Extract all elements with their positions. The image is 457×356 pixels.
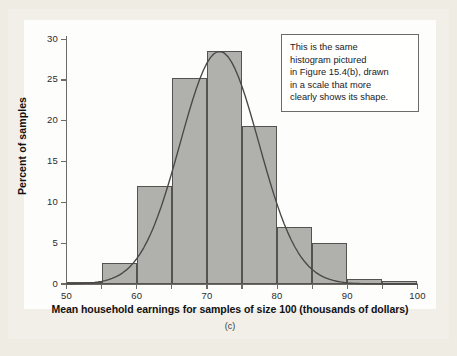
x-tick-label-50: 50 [47, 290, 87, 301]
annotation-line-4: clearly shows its shape. [290, 91, 411, 104]
annotation-line-3: in a scale that more [290, 79, 411, 92]
histogram-bar-85-90 [312, 243, 347, 284]
histogram-bar-90-95 [347, 279, 382, 284]
y-tick-label-5: 5 [12, 237, 58, 248]
histogram-bar-55-60 [102, 263, 137, 284]
x-tick-95 [382, 284, 383, 289]
histogram-bar-95-100 [382, 281, 417, 284]
histogram-bar-50-55 [67, 282, 102, 284]
x-tick-label-90: 90 [327, 290, 367, 301]
figure-panel: 051015202530 5060708090100 Percent of sa… [0, 0, 457, 356]
x-tick-label-70: 70 [187, 290, 227, 301]
annotation-line-0: This is the same [290, 41, 411, 54]
annotation-line-1: histogram pictured [290, 54, 411, 67]
x-tick-65 [171, 284, 172, 289]
x-tick-90 [347, 284, 348, 289]
x-tick-50 [66, 284, 67, 289]
y-axis-title: Percent of samples [16, 66, 28, 226]
x-tick-100 [417, 284, 418, 289]
x-tick-85 [312, 284, 313, 289]
annotation-line-2: in Figure 15.4(b), drawn [290, 66, 411, 79]
chart-plot-area: 051015202530 5060708090100 Percent of sa… [0, 0, 457, 356]
x-tick-60 [136, 284, 137, 289]
y-tick-15 [61, 161, 66, 162]
y-tick-label-30: 30 [12, 33, 58, 44]
histogram-bar-70-75 [207, 51, 242, 284]
y-axis-line [66, 36, 67, 285]
x-tick-label-60: 60 [117, 290, 157, 301]
histogram-bar-65-70 [172, 78, 207, 284]
x-tick-label-80: 80 [257, 290, 297, 301]
histogram-bar-80-85 [277, 227, 312, 284]
x-axis-title: Mean household earnings for samples of s… [18, 303, 442, 315]
x-tick-label-100: 100 [398, 290, 438, 301]
y-tick-20 [61, 120, 66, 121]
x-tick-75 [241, 284, 242, 289]
x-tick-70 [206, 284, 207, 289]
x-tick-55 [101, 284, 102, 289]
y-tick-label-0: 0 [12, 278, 58, 289]
histogram-bar-60-65 [137, 186, 172, 284]
y-tick-5 [61, 243, 66, 244]
histogram-bar-75-80 [242, 126, 277, 284]
panel-caption: (c) [18, 321, 442, 331]
annotation-callout: This is the same histogram pictured in F… [281, 34, 419, 112]
x-tick-80 [277, 284, 278, 289]
y-tick-10 [61, 202, 66, 203]
y-tick-30 [61, 39, 66, 40]
y-tick-25 [61, 79, 66, 80]
